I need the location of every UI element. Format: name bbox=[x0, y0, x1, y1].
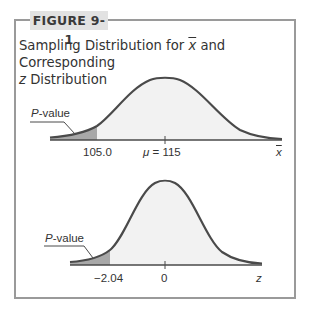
top-tick-label-left: 105.0 bbox=[83, 146, 112, 158]
top-pvalue-label: P-value bbox=[31, 107, 70, 119]
top-axis-label: x bbox=[276, 146, 282, 158]
bottom-pvalue-leader-2 bbox=[84, 246, 93, 258]
pvalue-rest: -value bbox=[53, 232, 84, 244]
bottom-tail-fill bbox=[70, 250, 110, 265]
pvalue-p: P bbox=[45, 232, 53, 244]
pvalue-rest: -value bbox=[39, 107, 70, 119]
top-tick-label-mean: μ = 115 bbox=[143, 146, 181, 158]
top-pvalue-leader-2 bbox=[64, 122, 75, 134]
bottom-tick-label-left: −2.04 bbox=[94, 272, 123, 284]
bottom-curve-fill bbox=[70, 181, 262, 265]
bottom-axis-label: z bbox=[256, 272, 262, 284]
pvalue-p: P bbox=[31, 107, 39, 119]
bottom-distribution bbox=[44, 181, 262, 269]
mean-value: = 115 bbox=[149, 146, 180, 158]
bottom-pvalue-label: P-value bbox=[45, 232, 84, 244]
bottom-tick-label-mean: 0 bbox=[161, 272, 167, 284]
